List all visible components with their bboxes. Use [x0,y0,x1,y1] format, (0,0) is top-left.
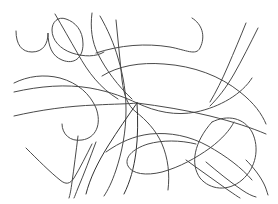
drawing-canvas [0,0,278,204]
abstract-line-art [0,0,278,204]
